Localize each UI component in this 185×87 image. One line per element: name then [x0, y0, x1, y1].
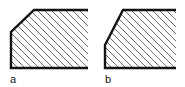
figure-a-label: a [10, 74, 16, 85]
figure-b-outline [105, 10, 176, 68]
figure-a-hatch [0, 10, 151, 68]
figure-b-label: b [105, 74, 111, 85]
chamfer-diagram [0, 0, 185, 87]
figure-b-hatch [40, 10, 185, 68]
figure-a-outline [11, 10, 88, 68]
